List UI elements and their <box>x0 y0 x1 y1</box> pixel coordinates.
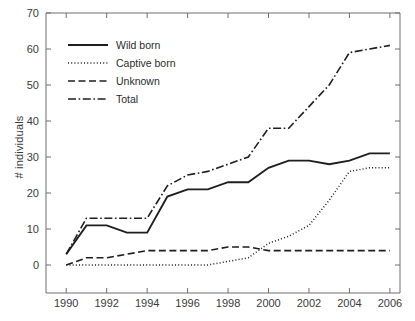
legend-label-unknown: Unknown <box>116 75 160 87</box>
series-line-total <box>66 45 390 254</box>
x-tick-label: 1996 <box>175 297 199 309</box>
y-tick-label: 60 <box>27 43 39 55</box>
data-series-group <box>66 45 390 265</box>
legend-label-total: Total <box>116 93 138 105</box>
chart-figure: # individuals 010203040506070 1990199219… <box>0 0 415 321</box>
x-tick-label: 2002 <box>297 297 321 309</box>
y-tick-label: 20 <box>27 187 39 199</box>
y-tick-label: 10 <box>27 223 39 235</box>
chart-legend: Wild bornCaptive bornUnknownTotal <box>68 39 176 105</box>
legend-label-captive-born: Captive born <box>116 57 176 69</box>
y-tick-label: 0 <box>33 259 39 271</box>
y-tick-label: 30 <box>27 151 39 163</box>
axis-frame <box>46 13 400 293</box>
y-tick-label: 70 <box>27 7 39 19</box>
series-line-unknown <box>66 247 390 265</box>
x-tick-label: 1992 <box>94 297 118 309</box>
y-tick-label: 50 <box>27 79 39 91</box>
plot-frame <box>46 13 400 293</box>
y-tick-label: 40 <box>27 115 39 127</box>
series-line-wild-born <box>66 153 390 254</box>
x-tick-label: 1990 <box>54 297 78 309</box>
x-tick-label: 2006 <box>378 297 402 309</box>
x-tick-label: 2000 <box>256 297 280 309</box>
legend-label-wild-born: Wild born <box>116 39 161 51</box>
x-tick-label: 2004 <box>337 297 361 309</box>
x-tick-label: 1994 <box>135 297 159 309</box>
line-chart-plot: 010203040506070 199019921994199619982000… <box>0 0 415 321</box>
x-tick-label: 1998 <box>216 297 240 309</box>
